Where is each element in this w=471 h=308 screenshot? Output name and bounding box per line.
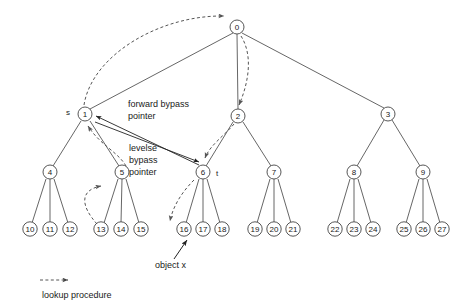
edge-3-8	[357, 120, 384, 166]
edge-5-14	[121, 179, 122, 223]
tree-edges	[32, 33, 440, 223]
node-12[interactable]: 12	[63, 222, 77, 236]
node-23[interactable]: 23	[347, 222, 361, 236]
edge-0-3	[242, 33, 384, 108]
node-label: 16	[180, 225, 189, 234]
node-label: 5	[120, 168, 125, 177]
edge-6-16	[186, 179, 199, 223]
node-5[interactable]: 5	[115, 165, 129, 179]
node-0[interactable]: 0	[230, 20, 244, 34]
node-9[interactable]: 9	[416, 165, 430, 179]
node-label: 23	[350, 225, 359, 234]
node-26[interactable]: 26	[416, 222, 430, 236]
levelse-bypass-line-3: pointer	[129, 167, 157, 177]
node-21[interactable]: 21	[286, 222, 300, 236]
node-label: 11	[46, 225, 55, 234]
object-x-pointer	[174, 240, 187, 259]
node-10[interactable]: 10	[23, 222, 37, 236]
edge-9-27	[427, 179, 440, 223]
annotation-forward-bypass-pointer: forward bypass pointer	[128, 99, 190, 121]
edge-1-4	[53, 121, 81, 166]
forward-bypass-line-1: forward bypass	[128, 99, 190, 109]
tree-nodes: 0 1 2 3 4 5 6	[23, 20, 449, 236]
node-label: 6	[201, 168, 206, 177]
edge-0-1	[90, 33, 233, 109]
edge-4-10	[32, 179, 46, 223]
node-label: 26	[419, 225, 428, 234]
legend-label: lookup procedure	[42, 290, 112, 300]
edge-5-15	[126, 179, 139, 223]
node-22[interactable]: 22	[328, 222, 342, 236]
node-label: 10	[26, 225, 35, 234]
node-label: 27	[438, 225, 447, 234]
node-17[interactable]: 17	[196, 222, 210, 236]
node-label: 9	[421, 168, 426, 177]
node-11[interactable]: 11	[43, 222, 57, 236]
lookup-2-to-6	[205, 124, 234, 158]
node-label: 7	[272, 168, 277, 177]
edge-9-25	[406, 179, 419, 223]
node-label: 19	[251, 225, 260, 234]
node-label: 12	[66, 225, 75, 234]
node-label: 22	[331, 225, 340, 234]
node-label: 14	[117, 225, 126, 234]
node-label: 25	[400, 225, 409, 234]
node-14[interactable]: 14	[114, 222, 128, 236]
node-18[interactable]: 18	[215, 222, 229, 236]
node-27[interactable]: 27	[435, 222, 449, 236]
node-8[interactable]: 8	[347, 165, 361, 179]
node-label: 13	[97, 225, 106, 234]
node-label: 18	[218, 225, 227, 234]
node-24[interactable]: 24	[366, 222, 380, 236]
node-15[interactable]: 15	[134, 222, 148, 236]
node-label: 0	[235, 23, 240, 32]
lookup-0-to-2	[239, 36, 248, 105]
object-x-arrow	[174, 240, 187, 259]
marker-t: t	[216, 169, 219, 178]
edge-8-22	[337, 179, 350, 223]
levelse-bypass-line-2: bypass	[129, 155, 158, 165]
edge-7-19	[257, 179, 270, 223]
levelse-bypass-line-1: levelse	[129, 143, 157, 153]
node-label: 24	[369, 225, 378, 234]
edge-3-9	[392, 120, 420, 166]
node-label: 17	[199, 225, 208, 234]
node-1[interactable]: 1	[78, 107, 92, 121]
diagram-canvas: 0 1 2 3 4 5 6	[0, 0, 471, 308]
edge-8-24	[358, 179, 371, 223]
lookup-procedure-legend: lookup procedure	[40, 280, 112, 300]
node-label: 3	[386, 110, 391, 119]
lookup-procedure-path	[84, 16, 248, 224]
forward-bypass-line-2: pointer	[128, 111, 156, 121]
node-13[interactable]: 13	[94, 222, 108, 236]
edge-2-7	[243, 122, 271, 166]
annotation-object-x: object x	[155, 260, 187, 270]
edge-7-21	[278, 179, 291, 223]
node-7[interactable]: 7	[267, 165, 281, 179]
edge-4-12	[54, 179, 68, 223]
edge-1-5	[90, 121, 119, 166]
node-3[interactable]: 3	[381, 107, 395, 121]
node-label: 2	[236, 112, 241, 121]
node-label: 15	[137, 225, 146, 234]
annotation-levelse-bypass-pointer: levelse bypass pointer	[129, 143, 158, 177]
marker-s: s	[66, 108, 70, 117]
node-label: 4	[48, 168, 53, 177]
edge-2-6	[206, 122, 233, 166]
node-label: 1	[83, 110, 88, 119]
edge-0-2	[237, 34, 238, 109]
node-19[interactable]: 19	[248, 222, 262, 236]
edge-6-18	[207, 179, 220, 223]
lookup-13-to-5	[85, 186, 101, 224]
node-4[interactable]: 4	[43, 165, 57, 179]
object-x-text: object x	[155, 260, 187, 270]
node-label: 8	[352, 168, 357, 177]
node-25[interactable]: 25	[397, 222, 411, 236]
node-label: 20	[270, 225, 279, 234]
lookup-6-to-16	[170, 180, 194, 221]
node-16[interactable]: 16	[177, 222, 191, 236]
node-20[interactable]: 20	[267, 222, 281, 236]
node-6[interactable]: 6	[196, 165, 210, 179]
edge-5-13	[104, 179, 118, 223]
node-2[interactable]: 2	[231, 109, 245, 123]
